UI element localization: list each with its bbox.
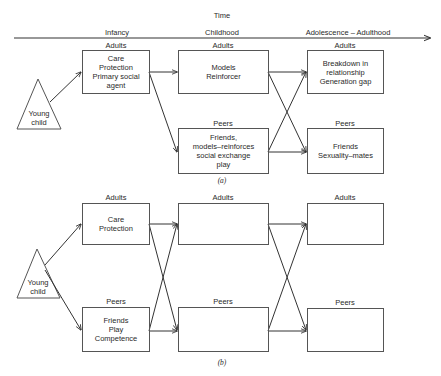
stage-adolescence-adulthood: Adolescence – Adulthood — [306, 28, 391, 37]
arrow-a-child-to-infancy-adults — [50, 72, 81, 102]
b-adolescence-peers-box — [307, 308, 384, 352]
caption-b: (b) — [218, 358, 227, 367]
stage-infancy: Infancy — [105, 28, 129, 37]
a-infancy-adults-box: Care Protection Primary social agent — [82, 50, 150, 94]
a-adolescence-peers-header: Peers — [335, 119, 355, 128]
a-adolescence-peers-text: Friends Sexuality–mates — [318, 142, 373, 160]
arrow-b-child-to-adults — [45, 224, 81, 265]
b-infancy-peers-box: Friends Play Competence — [82, 307, 150, 352]
b-childhood-adults-header: Adults — [213, 193, 234, 202]
a-adolescence-peers-box: Friends Sexuality–mates — [307, 128, 384, 174]
b-adolescence-adults-box — [307, 203, 384, 245]
a-infancy-adults-header: Adults — [106, 41, 127, 50]
b-childhood-adults-box — [178, 203, 269, 245]
a-childhood-peers-header: Peers — [213, 119, 233, 128]
arrow-a-infancy-to-childhood-peers — [149, 72, 177, 152]
a-childhood-adults-text: Models Reinforcer — [206, 63, 241, 81]
a-adolescence-adults-header: Adults — [335, 41, 356, 50]
time-axis-title: Time — [214, 11, 230, 20]
b-adolescence-peers-header: Peers — [335, 298, 355, 307]
a-adolescence-adults-text: Breakdown in relationship Generation gap — [320, 59, 372, 86]
a-childhood-peers-text: Friends, models–reinforces social exchan… — [193, 133, 254, 169]
stage-childhood: Childhood — [205, 28, 239, 37]
b-infancy-peers-header: Peers — [106, 297, 126, 306]
a-adolescence-adults-box: Breakdown in relationship Generation gap — [307, 50, 384, 94]
a-childhood-adults-box: Models Reinforcer — [178, 50, 269, 94]
b-infancy-peers-text: Friends Play Competence — [95, 316, 138, 343]
a-infancy-adults-text: Care Protection Primary social agent — [92, 54, 139, 90]
young-child-label-b: Young child — [28, 278, 49, 296]
b-infancy-adults-text: Care Protection — [99, 215, 133, 233]
b-childhood-peers-box — [178, 307, 269, 352]
b-childhood-peers-header: Peers — [213, 297, 233, 306]
b-infancy-adults-box: Care Protection — [82, 203, 150, 245]
caption-a: (a) — [218, 176, 227, 185]
a-childhood-peers-box: Friends, models–reinforces social exchan… — [178, 128, 269, 174]
b-infancy-adults-header: Adults — [106, 193, 127, 202]
arrow-b-child-to-peers — [45, 270, 81, 330]
young-child-label-a: Young child — [29, 109, 50, 127]
b-adolescence-adults-header: Adults — [335, 193, 356, 202]
a-childhood-adults-header: Adults — [213, 41, 234, 50]
